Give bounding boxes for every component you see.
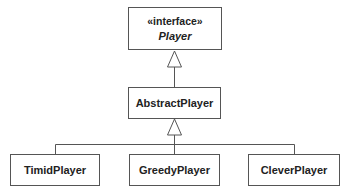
stereotype-label: «interface»	[147, 14, 202, 29]
abstract-player-box: AbstractPlayer	[128, 87, 221, 119]
class-name: GreedyPlayer	[139, 164, 210, 176]
inheritance-arrowhead-icon	[168, 51, 182, 67]
interface-name: Player	[158, 29, 191, 44]
timid-player-box: TimidPlayer	[10, 154, 100, 186]
class-name: TimidPlayer	[24, 164, 86, 176]
greedy-player-box: GreedyPlayer	[129, 154, 220, 186]
clever-player-box: CleverPlayer	[248, 154, 340, 186]
class-name: AbstractPlayer	[136, 97, 214, 109]
inheritance-arrowhead-icon	[168, 119, 182, 135]
interface-player-box: «interface» Player	[128, 7, 222, 50]
class-name: CleverPlayer	[261, 164, 328, 176]
